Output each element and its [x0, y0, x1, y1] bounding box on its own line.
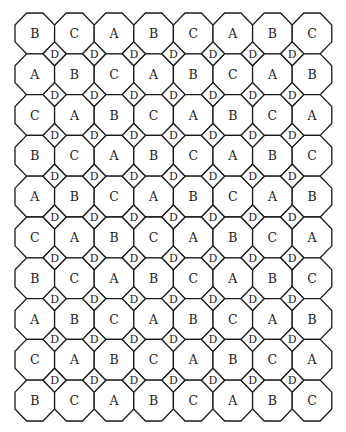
octagon-label: C — [188, 393, 198, 408]
square-label: D — [129, 333, 138, 346]
square-label: D — [129, 89, 138, 102]
octagon-label: B — [30, 26, 39, 41]
octagon-label: A — [69, 352, 80, 367]
octagon-label: C — [30, 108, 40, 123]
square-label: D — [209, 129, 218, 142]
square-label: D — [169, 89, 178, 102]
octagon-label: A — [306, 108, 317, 123]
octagon-label: A — [108, 271, 119, 286]
square-label: D — [50, 252, 59, 265]
square-label: D — [129, 374, 138, 387]
square-label: D — [248, 48, 257, 61]
square-label: D — [90, 293, 99, 306]
octagon-label: C — [228, 67, 238, 82]
octagon-label: C — [149, 230, 159, 245]
square-label: D — [50, 374, 59, 387]
octagon-label: C — [70, 26, 80, 41]
square-label: D — [288, 252, 297, 265]
octagon-label: B — [307, 312, 316, 327]
octagon-label: B — [149, 393, 158, 408]
octagon-label: B — [189, 312, 198, 327]
square-label: D — [90, 374, 99, 387]
square-label: D — [50, 129, 59, 142]
square-label: D — [129, 48, 138, 61]
octagon-label: A — [267, 312, 278, 327]
octagon-label: A — [306, 230, 317, 245]
square-label: D — [90, 252, 99, 265]
octagon-label: A — [227, 148, 238, 163]
octagon-label: C — [149, 352, 159, 367]
square-label: D — [248, 170, 257, 183]
square-label: D — [248, 211, 257, 224]
square-label: D — [129, 252, 138, 265]
octagon-label: A — [108, 148, 119, 163]
octagon-label: A — [188, 352, 199, 367]
octagon-label: B — [228, 352, 237, 367]
square-label: D — [288, 333, 297, 346]
square-label: D — [169, 374, 178, 387]
octagon-label: C — [109, 189, 119, 204]
square-label: D — [209, 89, 218, 102]
octagon-label: A — [69, 230, 80, 245]
square-label: D — [248, 89, 257, 102]
square-label: D — [209, 293, 218, 306]
square-label: D — [248, 333, 257, 346]
octagon-label: C — [228, 312, 238, 327]
octagon-label: B — [149, 148, 158, 163]
square-label: D — [288, 293, 297, 306]
square-label: D — [50, 211, 59, 224]
square-label: D — [50, 293, 59, 306]
octagon-label: A — [188, 108, 199, 123]
square-label: D — [129, 293, 138, 306]
octagon-label: B — [268, 26, 277, 41]
octagon-label: C — [307, 271, 317, 286]
square-label: D — [169, 333, 178, 346]
octagon-label: B — [70, 67, 79, 82]
square-label: D — [288, 89, 297, 102]
octagon-label: C — [30, 352, 40, 367]
octagon-label: B — [70, 312, 79, 327]
square-label: D — [129, 129, 138, 142]
square-label: D — [288, 170, 297, 183]
octagon-label: A — [29, 189, 40, 204]
octagon-label: C — [307, 148, 317, 163]
octagon-label: C — [109, 67, 119, 82]
square-label: D — [288, 211, 297, 224]
octagon-label: C — [307, 393, 317, 408]
square-label: D — [90, 333, 99, 346]
square-label: D — [169, 129, 178, 142]
square-label: D — [288, 48, 297, 61]
octagon-label: B — [268, 148, 277, 163]
octagon-label: A — [148, 67, 159, 82]
square-label: D — [90, 170, 99, 183]
square-label: D — [90, 129, 99, 142]
square-label: D — [129, 170, 138, 183]
octagon-label: A — [267, 189, 278, 204]
square-label: D — [169, 170, 178, 183]
octagon-label: C — [228, 189, 238, 204]
square-label: D — [169, 48, 178, 61]
octagon-label: B — [228, 230, 237, 245]
square-label: D — [209, 333, 218, 346]
square-label: D — [248, 129, 257, 142]
octagon-label: B — [268, 271, 277, 286]
octagon-label: B — [109, 352, 118, 367]
octagon-label: A — [108, 26, 119, 41]
octagon-label: C — [188, 271, 198, 286]
octagon-label: B — [30, 148, 39, 163]
square-label: D — [90, 89, 99, 102]
square-label: D — [209, 374, 218, 387]
octagon-label: B — [307, 189, 316, 204]
square-label: D — [90, 211, 99, 224]
octagon-label: B — [109, 108, 118, 123]
square-label: D — [248, 293, 257, 306]
square-label: D — [209, 252, 218, 265]
octagon-label: A — [29, 67, 40, 82]
octagon-label: C — [70, 271, 80, 286]
octagon-label: C — [70, 393, 80, 408]
octagon-label: B — [70, 189, 79, 204]
square-layer: DDDDDDDDDDDDDDDDDDDDDDDDDDDDDDDDDDDDDDDD… — [43, 42, 304, 392]
square-label: D — [90, 48, 99, 61]
octagon-label: C — [268, 230, 278, 245]
octagon-label: A — [267, 67, 278, 82]
